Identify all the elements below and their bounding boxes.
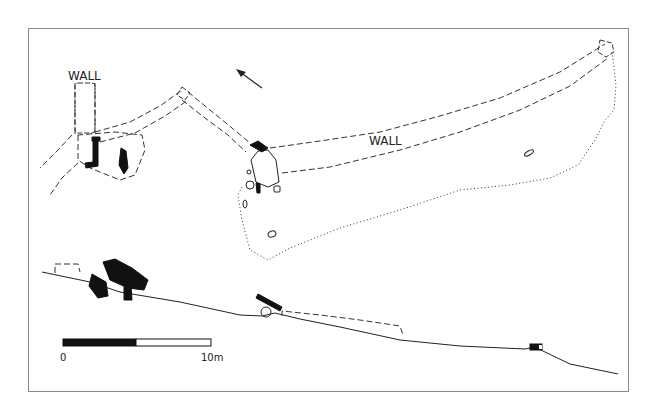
- plan-view: WALL WALL: [40, 40, 616, 260]
- profile-wall-left: [55, 264, 80, 273]
- site-drawing: WALL WALL 0 10m: [0, 0, 654, 411]
- north-arrow-icon: [236, 69, 262, 88]
- label-wall-left: WALL: [68, 69, 101, 83]
- wall-left-to-apex: [95, 87, 190, 142]
- profile-support: [124, 286, 132, 300]
- label-wall-right: WALL: [369, 134, 402, 148]
- profile-capstone: [103, 259, 148, 290]
- stone-upright: [119, 148, 128, 174]
- tomb-chamber: [243, 141, 280, 238]
- scale-bar: 0 10m: [60, 339, 223, 363]
- profile-wall-right: [282, 311, 403, 335]
- scale-segment-white: [136, 339, 211, 346]
- profile-stone-left: [89, 274, 108, 298]
- cairn-outline: [238, 52, 616, 260]
- scale-label-start: 0: [60, 352, 66, 363]
- small-stone: [524, 149, 535, 157]
- stone-l-shape: [85, 137, 100, 168]
- profile-view: [42, 259, 618, 374]
- left-wall-branch: [40, 135, 78, 195]
- scale-segment-black: [63, 339, 136, 346]
- long-wall: [270, 40, 614, 173]
- profile-block-gap: [539, 345, 542, 349]
- left-wall-vertical: [75, 83, 95, 135]
- wall-apex-to-tomb: [182, 92, 250, 152]
- scale-label-end: 10m: [201, 352, 223, 363]
